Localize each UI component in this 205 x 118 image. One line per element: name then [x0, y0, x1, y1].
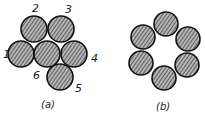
- panel-a-strand-label: 1: [3, 48, 10, 61]
- panel-a-strand-circle: [61, 41, 87, 67]
- panel-a-strand-label: 2: [32, 2, 39, 15]
- panel-b-strand-circle: [154, 12, 178, 36]
- strand-diagram: 123456 (a) (b): [0, 0, 205, 118]
- panel-b-strand-circle: [175, 53, 199, 77]
- panel-a-strand-circle: [34, 41, 60, 67]
- panel-b-strand-circle: [152, 66, 176, 90]
- panel-a-strand-circle: [21, 16, 47, 42]
- panel-b: [129, 12, 200, 90]
- panel-b-strand-circle: [176, 27, 200, 51]
- panel-a-strand-label: 6: [33, 69, 40, 82]
- panel-a-strand-circle: [48, 16, 74, 42]
- panel-a-strand-label: 4: [91, 52, 98, 65]
- caption-b: (b): [156, 101, 170, 112]
- panel-b-strand-circle: [129, 51, 153, 75]
- panel-b-strand-circle: [131, 25, 155, 49]
- caption-a: (a): [41, 99, 55, 110]
- panel-a-strand-circle: [47, 64, 73, 90]
- panel-a: 123456: [3, 2, 98, 95]
- panel-a-strand-circle: [8, 41, 34, 67]
- panel-a-strand-label: 3: [65, 3, 72, 16]
- panel-a-strand-label: 5: [75, 82, 82, 95]
